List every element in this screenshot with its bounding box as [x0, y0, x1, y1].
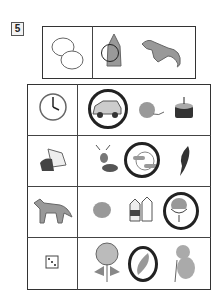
clock-icon: [38, 92, 68, 122]
hydrangea-icon: [90, 242, 124, 284]
answer-circle: [101, 44, 119, 62]
hermit-crab-icon: [38, 145, 68, 173]
yarn-icon: [137, 100, 165, 120]
milk-cartons-icon: [128, 196, 154, 222]
exercise-number: 5: [11, 22, 24, 36]
potatoes-icon: [50, 34, 86, 72]
koala-icon: [171, 242, 201, 282]
ferret-icon: [138, 34, 186, 72]
orange-icon: [92, 201, 112, 219]
row-divider: [27, 186, 211, 187]
quill-icon: [176, 144, 192, 178]
answer-circle: [88, 89, 128, 129]
mantis-icon: [92, 144, 120, 178]
dice-icon: [44, 252, 62, 270]
row-divider: [27, 237, 211, 238]
example-divider: [92, 26, 93, 79]
answer-circle: [124, 142, 160, 178]
cake-icon: [173, 96, 195, 120]
table-column-divider: [77, 84, 78, 290]
answer-circle: [128, 246, 158, 282]
row-divider: [27, 135, 211, 136]
answer-circle: [163, 192, 199, 230]
fox-icon: [32, 195, 74, 225]
